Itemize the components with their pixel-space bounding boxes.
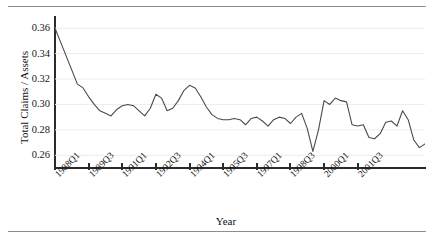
x-axis-tick-label: 1997Q1 [255,150,284,179]
x-axis-tick-label: 1998Q3 [288,150,317,179]
x-axis-title: Year [0,216,434,227]
x-axis-tick-label: 2000Q1 [322,150,351,179]
x-axis-title-text: Year [216,216,236,227]
x-axis-tick-label: 1988Q1 [53,150,82,179]
x-axis-tick-label: 1989Q3 [87,150,116,179]
x-axis-tick-label: 1992Q3 [154,150,183,179]
x-axis-ticks: 1988Q11989Q31991Q11992Q31994Q11995Q31997… [0,0,434,240]
x-axis-tick-label: 1995Q3 [221,150,250,179]
x-axis-tick-label: 2001Q3 [356,150,385,179]
x-axis-tick-label: 1991Q1 [120,150,149,179]
x-axis-tick-label: 1994Q1 [188,150,217,179]
chart-figure: Total Claims / Assets 0.260.280.300.320.… [0,0,434,240]
